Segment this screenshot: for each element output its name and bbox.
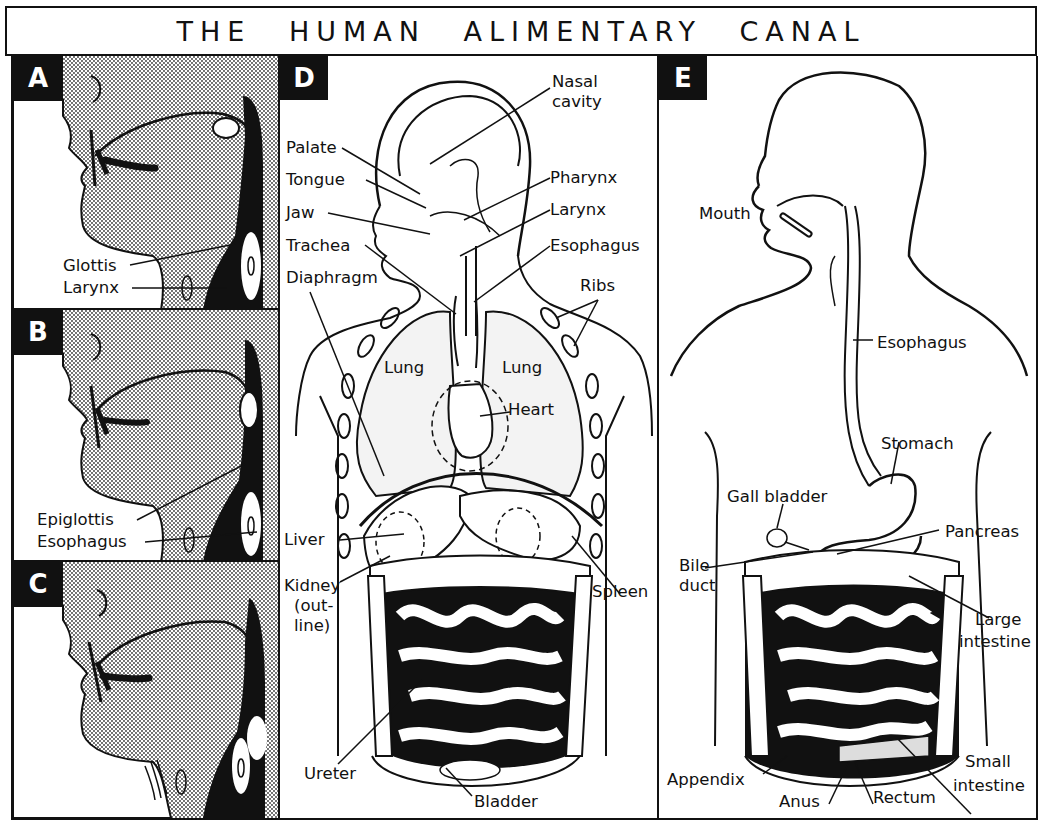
- panel-d: D: [278, 56, 658, 820]
- diagram-title: THE HUMAN ALIMENTARY CANAL: [176, 16, 865, 47]
- panel-a: A: [13, 56, 279, 310]
- label-lung-right: Lung: [502, 358, 542, 377]
- label-heart: Heart: [508, 400, 554, 419]
- label-kidney: Kidney: [284, 576, 340, 595]
- panel-d-letter: D: [280, 56, 328, 100]
- label-esophagus-d: Esophagus: [550, 236, 640, 255]
- panel-b-letter: B: [13, 310, 63, 354]
- label-bladder: Bladder: [474, 792, 538, 811]
- label-glottis: Glottis: [63, 256, 117, 275]
- panel-b: B Epiglottis Esophagus: [13, 310, 279, 562]
- label-diaphragm: Diaphragm: [286, 268, 378, 287]
- label-esophagus-b: Esophagus: [37, 532, 127, 551]
- label-mouth: Mouth: [699, 204, 751, 223]
- label-anus: Anus: [779, 792, 820, 811]
- label-spleen: Spleen: [592, 582, 648, 601]
- label-esophagus-e: Esophagus: [877, 333, 967, 352]
- label-palate: Palate: [286, 138, 337, 157]
- label-rectum: Rectum: [873, 788, 936, 807]
- label-trachea: Trachea: [286, 236, 350, 255]
- panel-c: C: [13, 562, 279, 818]
- label-ribs: Ribs: [580, 276, 615, 295]
- label-liver: Liver: [284, 530, 324, 549]
- diagram-title-bar: THE HUMAN ALIMENTARY CANAL: [5, 6, 1037, 56]
- label-tongue: Tongue: [286, 170, 345, 189]
- label-large-intestine: intestine: [959, 632, 1031, 651]
- label-epiglottis: Epiglottis: [37, 510, 114, 529]
- label-larynx-d: Larynx: [550, 200, 606, 219]
- label-bile: Bile: [679, 556, 710, 575]
- swallowing-sequence-column: A: [11, 56, 279, 820]
- label-kidney-outline-1: (out-: [294, 596, 333, 615]
- label-stomach: Stomach: [881, 434, 954, 453]
- label-lung-left: Lung: [384, 358, 424, 377]
- label-ureter: Ureter: [304, 764, 356, 783]
- panel-e: E: [657, 56, 1038, 820]
- label-pharynx: Pharynx: [550, 168, 617, 187]
- panel-a-letter: A: [13, 56, 63, 100]
- label-cavity: cavity: [552, 92, 602, 111]
- label-small-intestine: intestine: [953, 776, 1025, 795]
- alimentary-canal-illustration: [659, 56, 1038, 820]
- panel-e-letter: E: [659, 56, 707, 100]
- label-large: Large: [975, 610, 1021, 629]
- label-jaw: Jaw: [286, 203, 314, 222]
- label-appendix: Appendix: [667, 770, 745, 789]
- label-small: Small: [965, 752, 1011, 771]
- label-kidney-outline-2: line): [294, 616, 330, 635]
- label-gall-bladder: Gall bladder: [727, 487, 827, 506]
- panel-c-letter: C: [13, 562, 63, 606]
- label-duct: duct: [679, 576, 715, 595]
- label-nasal: Nasal: [552, 72, 598, 91]
- label-larynx-a: Larynx: [63, 278, 119, 297]
- label-pancreas: Pancreas: [945, 522, 1019, 541]
